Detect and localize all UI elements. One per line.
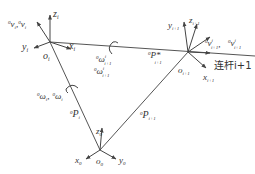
svg-text:xi+1: xi+1 [202,72,214,83]
z-i1-axis [188,24,197,52]
y-i1-axis [184,22,188,52]
omega-i-label: 0ωi,0ωi [37,91,63,102]
x-i1-axis [188,52,206,68]
link-dir-arrow [188,52,210,53]
svg-text:xi: xi [68,40,75,52]
y-0-axis [100,150,116,159]
p-i1-label: 0Pi+1 [140,109,156,121]
v-i-label: 0vi,0vi [8,19,27,30]
v-i-arrow [37,22,50,42]
kinematics-diagram: zi yi xi oi 0vi,0vi 0ωii+1 0ωii+1 0P*i+1… [0,0,255,174]
y-i-axis [34,42,50,48]
svg-text:zi+1: zi+1 [188,15,200,26]
svg-text:0vii+1,: 0vii+1, [205,38,220,50]
svg-text:yi: yi [21,41,28,53]
svg-text:y0: y0 [118,155,126,166]
frame-i1 [184,22,210,68]
omega-i1-arc-icon [109,42,118,54]
frame-i1-labels: yi+1 zi+1 oi+1 xi+1 0vii+1, 0vii+1 连杆i+1 [167,15,252,83]
link-label: 连杆i+1 [214,59,252,71]
svg-text:z0: z0 [95,126,103,137]
svg-text:0ωii+1: 0ωii+1 [96,54,112,66]
svg-text:x0: x0 [74,155,82,166]
p-i-label: 0Pi [70,108,81,120]
svg-text:oi+1: oi+1 [178,65,190,76]
svg-text:0ωii+1: 0ωii+1 [94,66,110,78]
link-line-o0-oi1 [100,52,188,150]
svg-text:zi: zi [52,8,59,20]
svg-text:oi: oi [43,50,50,62]
svg-text:0vii+1: 0vii+1 [228,38,241,50]
omega-i1-labels: 0ωii+1 0ωii+1 [94,54,112,78]
frame-i-labels: zi yi xi oi 0vi,0vi [8,8,75,62]
svg-text:yi+1: yi+1 [167,20,179,31]
svg-text:o0: o0 [96,156,104,167]
frame-i [34,15,71,49]
p-star-label: 0P*i+1 [148,50,162,65]
